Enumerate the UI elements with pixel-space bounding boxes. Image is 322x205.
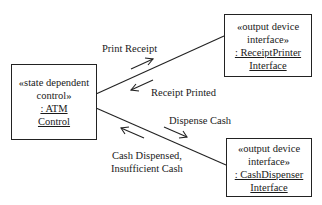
cash-dispenser-stereotype-2: interface» bbox=[248, 155, 290, 168]
arrow-receipt-printed-icon bbox=[131, 80, 153, 91]
cash-dispenser-name-1: : CashDispenser bbox=[235, 168, 304, 181]
atm-control-stereotype-1: «state dependent bbox=[19, 76, 89, 89]
arrow-dispense-cash-icon bbox=[164, 127, 187, 138]
atm-control-stereotype-2: control» bbox=[37, 89, 72, 102]
receipt-printer-name-2: Interface bbox=[249, 59, 286, 72]
message-print-receipt: Print Receipt bbox=[102, 42, 157, 55]
atm-control-object: «state dependent control» : ATM Control bbox=[11, 64, 97, 140]
message-receipt-printed: Receipt Printed bbox=[151, 86, 216, 99]
cash-dispenser-interface-object: «output device interface» : CashDispense… bbox=[226, 138, 312, 197]
receipt-printer-interface-object: «output device interface» : ReceiptPrint… bbox=[224, 14, 312, 77]
cash-dispenser-stereotype-1: «output device bbox=[238, 142, 300, 155]
receipt-printer-name-1: : ReceiptPrinter bbox=[235, 46, 301, 59]
atm-control-name-2: Control bbox=[38, 115, 70, 128]
cash-dispenser-name-2: Interface bbox=[250, 181, 287, 194]
receipt-printer-stereotype-2: interface» bbox=[247, 33, 289, 46]
arrow-print-receipt-icon bbox=[131, 58, 153, 69]
receipt-printer-stereotype-1: «output device bbox=[237, 20, 299, 33]
message-cash-dispensed-line-1: Cash Dispensed, bbox=[111, 149, 183, 162]
atm-control-name-1: : ATM bbox=[40, 102, 67, 115]
message-cash-dispensed: Cash Dispensed, Insufficient Cash bbox=[111, 149, 183, 175]
message-dispense-cash: Dispense Cash bbox=[169, 114, 231, 127]
message-cash-dispensed-line-2: Insufficient Cash bbox=[111, 162, 183, 175]
arrow-cash-dispensed-icon bbox=[121, 127, 144, 138]
